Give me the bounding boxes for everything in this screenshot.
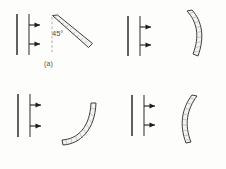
angle-label-a: 45° [52,29,63,38]
engineering-diagram: 45° (a) [0,0,226,169]
arrow-head-upper-c [36,103,42,108]
bar-body-d [182,95,197,143]
arrow-head-upper-b [146,25,152,30]
arrow-head-lower-c [36,124,42,129]
panel-caption-a: (a) [44,60,53,67]
bar-body-c [62,103,96,145]
panel-d: (d) [113,85,226,169]
support-symbol-c [18,94,41,137]
panel-c: (c) [0,85,113,169]
panel-b-drawing [113,0,226,84]
curved-bar-d [182,95,197,143]
panel-b: (b) [113,0,226,84]
support-symbol-b [128,16,151,56]
arrow-head-lower-d [150,123,156,128]
support-symbol-d [132,95,155,136]
bar-body-b [187,10,202,56]
arrow-head-lower-b [146,43,152,48]
arrow-head-lower-a [35,42,41,47]
curved-bar-b [187,10,202,56]
panel-c-drawing [0,85,113,169]
panel-a: 45° (a) [0,0,113,84]
support-symbol-a [17,14,40,55]
arrow-head-upper-d [150,104,156,109]
curved-bar-c [62,103,96,145]
panel-d-drawing [113,85,226,169]
panel-a-drawing [0,0,113,84]
arrow-head-upper-a [35,23,41,28]
